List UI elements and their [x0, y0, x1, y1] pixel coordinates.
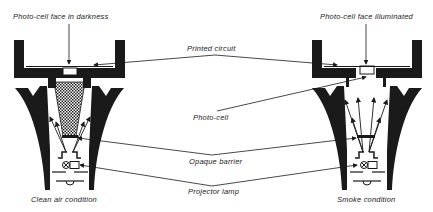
label-smoke-condition: Smoke condition	[337, 195, 395, 204]
smoke-detector	[312, 40, 422, 190]
clean-air-detector	[14, 40, 125, 190]
label-printed-circuit: Printed circuit	[187, 44, 235, 53]
label-photo-cell: Photo-cell	[193, 113, 228, 122]
label-clean-air: Clean air condition	[31, 195, 97, 204]
smoke-detector-diagram	[0, 0, 433, 212]
label-photocell-illuminated: Photo-cell face illuminated	[320, 12, 413, 21]
label-opaque-barrier: Opaque barrier	[189, 157, 242, 166]
label-photocell-darkness: Photo-cell face in darkness	[13, 12, 108, 21]
label-projector-lamp: Projector lamp	[188, 187, 239, 196]
